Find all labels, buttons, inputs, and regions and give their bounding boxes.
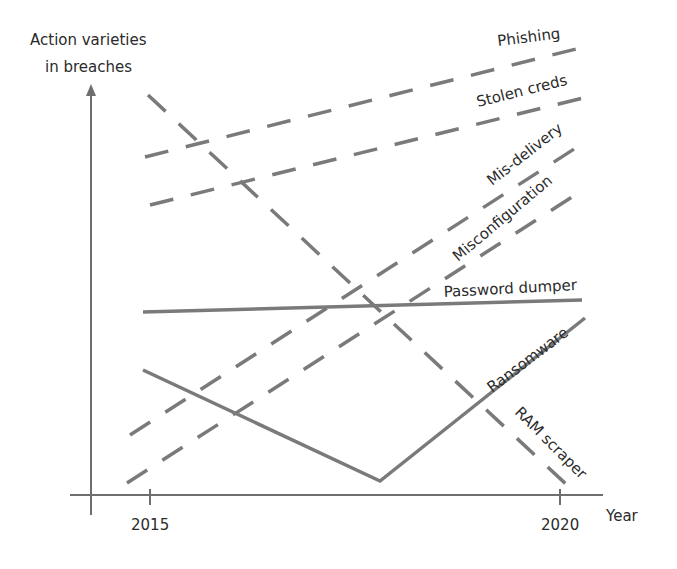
x-tick-label-2015: 2015 xyxy=(131,516,169,534)
y-axis-title-line2: in breaches xyxy=(45,58,132,76)
label-phishing: Phishing xyxy=(496,24,561,50)
label-stolen-creds: Stolen creds xyxy=(475,71,570,111)
label-mis-delivery: Mis-delivery xyxy=(483,119,566,189)
series-ransomware xyxy=(143,318,585,481)
label-ransomware: Ransomware xyxy=(484,323,572,396)
series-phishing xyxy=(145,48,580,157)
x-tick-label-2020: 2020 xyxy=(541,516,579,534)
series-password-dumper xyxy=(143,300,582,312)
chart-canvas: Action varieties in breaches 2015 2020 Y… xyxy=(0,0,677,569)
series-misconfiguration xyxy=(127,190,583,483)
y-axis-title-line1: Action varieties xyxy=(30,31,147,49)
label-password-dumper: Password dumper xyxy=(443,276,578,301)
y-axis-arrow-icon xyxy=(86,84,96,96)
x-axis-title: Year xyxy=(605,507,639,525)
